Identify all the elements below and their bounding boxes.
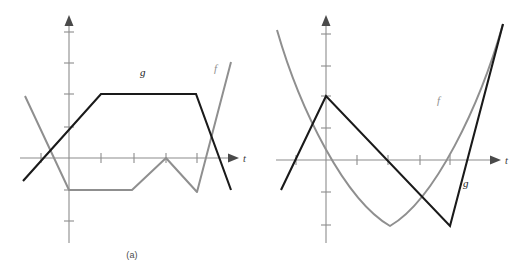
curve-label-f-a: f <box>214 62 219 74</box>
curve-f-b <box>277 24 503 226</box>
x-axis-arrowhead-a <box>228 154 239 163</box>
curve-label-g-a: g <box>140 66 146 78</box>
figure-container: g f t (a) <box>0 0 527 274</box>
curve-label-f-b: f <box>437 94 442 106</box>
curve-g-a <box>23 94 231 190</box>
y-axis-arrowhead-a <box>65 15 74 26</box>
x-axis-label-a: t <box>243 153 247 164</box>
chart-panel-b: f g t (b) <box>263 0 527 274</box>
curve-f-a <box>25 62 231 192</box>
curve-label-g-b: g <box>463 177 469 189</box>
curve-g-b <box>281 24 503 226</box>
chart-panel-a: g f t (a) <box>0 0 264 274</box>
x-axis-label-b: t <box>505 155 509 166</box>
chart-svg-a: g f t <box>0 0 264 250</box>
y-axis-arrowhead-b <box>322 15 331 26</box>
panel-caption-a: (a) <box>0 250 264 260</box>
x-axis-arrowhead-b <box>490 156 501 165</box>
chart-svg-b: f g t <box>263 0 527 250</box>
